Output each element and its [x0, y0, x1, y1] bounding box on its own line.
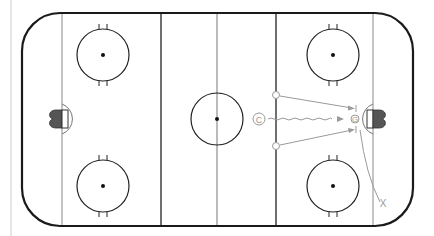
goalie-marker: G: [351, 115, 359, 124]
player-top-marker: [273, 92, 280, 99]
player-bottom-marker: [273, 143, 280, 150]
hockey-rink-diagram: C G X: [0, 0, 434, 236]
faceoff-circle-top-left: [77, 24, 129, 86]
faceoff-circle-bottom-left: [77, 155, 129, 217]
center-faceoff-dot: [215, 117, 219, 121]
svg-text:G: G: [352, 115, 358, 124]
left-goal: [50, 104, 73, 134]
right-goal: [363, 104, 386, 134]
faceoff-circle-bottom-right: [307, 155, 359, 217]
coach-marker: C: [253, 113, 265, 125]
faceoff-circle-top-right: [307, 24, 359, 86]
svg-text:C: C: [256, 115, 263, 125]
drill-paths: [268, 96, 380, 202]
defender-x-label: X: [380, 198, 387, 209]
